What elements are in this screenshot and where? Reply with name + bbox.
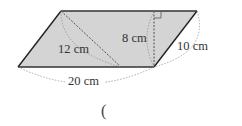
parallelogram <box>18 11 197 67</box>
side-label: 10 cm <box>177 39 208 53</box>
height-label: 8 cm <box>122 31 147 45</box>
base-label: 20 cm <box>68 74 99 88</box>
parallelogram-figure: 12 cm 8 cm 10 cm 20 cm ( <box>0 0 242 126</box>
diagonal-label: 12 cm <box>58 42 89 56</box>
answer-open-paren: ( <box>101 102 106 120</box>
